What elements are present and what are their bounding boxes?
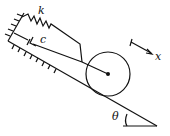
coordinate-arrow xyxy=(130,39,152,54)
inclined-plane xyxy=(8,41,157,126)
angle-arc xyxy=(126,114,128,126)
spring-label: k xyxy=(38,4,45,17)
disk-center xyxy=(106,72,110,76)
diagram-canvas: k c x θ xyxy=(0,0,170,136)
coordinate-label: x xyxy=(155,50,162,63)
damper xyxy=(14,33,82,62)
angle-label: θ xyxy=(112,110,119,123)
damper-label: c xyxy=(40,33,46,46)
